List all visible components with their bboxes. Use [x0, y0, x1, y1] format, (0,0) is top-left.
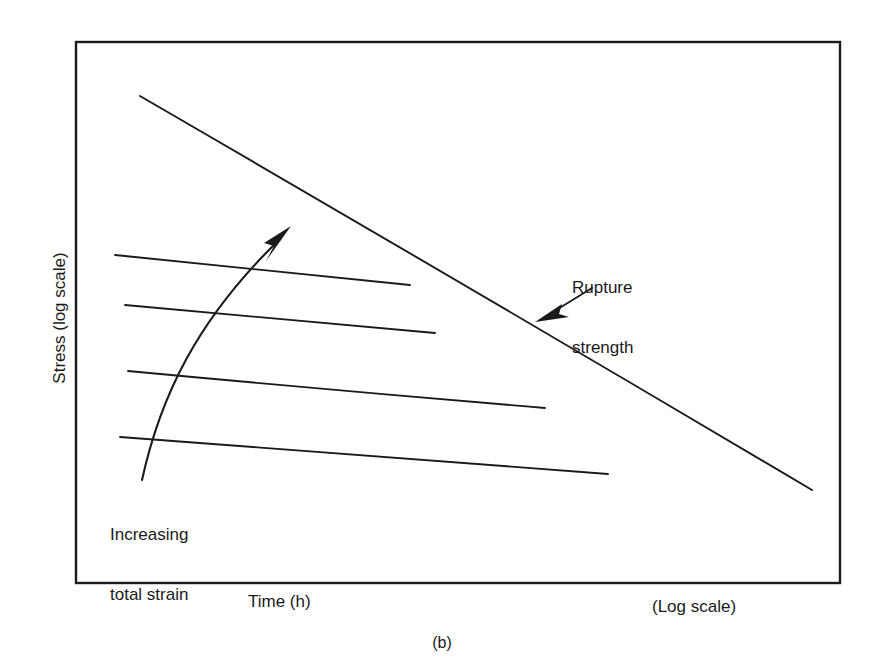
y-axis-label: Stress (log scale) [50, 188, 70, 448]
increasing-strain-annotation: Increasing total strain [110, 485, 188, 645]
subfigure-caption: (b) [0, 634, 884, 653]
x-axis-scale-note: (Log scale) [652, 597, 736, 617]
figure-root: Stress (log scale) Time (h) (Log scale) … [0, 0, 884, 668]
strain-annotation-line-2: total strain [110, 585, 188, 605]
plot-frame [76, 42, 840, 583]
rupture-annotation-line-1: Rupture [572, 278, 633, 298]
rupture-annotation-line-2: strength [572, 338, 633, 358]
x-axis-label: Time (h) [248, 592, 311, 612]
strain-annotation-line-1: Increasing [110, 525, 188, 545]
rupture-strength-annotation: Rupture strength [572, 238, 633, 398]
